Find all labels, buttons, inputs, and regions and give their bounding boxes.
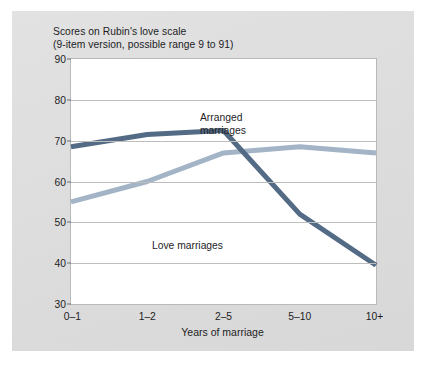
y-axis-tick-label: 30 xyxy=(55,299,66,310)
y-axis-tick-label: 40 xyxy=(55,258,66,269)
chart-title: Scores on Rubin's love scale (9-item ver… xyxy=(53,25,383,51)
chart-figure: Scores on Rubin's love scale (9-item ver… xyxy=(0,0,426,366)
y-axis-tick-label: 50 xyxy=(55,217,66,228)
y-axis-tick-mark xyxy=(67,181,71,182)
annotation-arranged-marriages: Arranged marriages xyxy=(200,112,246,137)
y-axis-tick-mark xyxy=(67,59,71,60)
y-axis-tick-mark xyxy=(67,263,71,264)
x-axis-tick-label: 0–1 xyxy=(64,311,81,322)
y-axis-tick-mark xyxy=(67,140,71,141)
gridline xyxy=(71,222,376,223)
y-axis-tick-mark xyxy=(67,304,71,305)
x-axis-tick-label: 10+ xyxy=(366,311,383,322)
y-axis-tick-mark xyxy=(67,222,71,223)
x-axis-tick-label: 5–10 xyxy=(288,311,311,322)
x-axis-tick-label: 1–2 xyxy=(139,311,156,322)
annotation-love-marriages: Love marriages xyxy=(152,240,223,253)
y-axis-tick-label: 80 xyxy=(55,94,66,105)
plot-area: 304050607080900–11–22–55–1010+ xyxy=(70,58,377,305)
y-axis-tick-label: 90 xyxy=(55,54,66,65)
gridline xyxy=(71,263,376,264)
line-arranged-marriages xyxy=(71,147,376,202)
chart-title-line-2: (9-item version, possible range 9 to 91) xyxy=(53,38,383,51)
y-axis-tick-label: 70 xyxy=(55,135,66,146)
gridline xyxy=(71,100,376,101)
y-axis-tick-label: 60 xyxy=(55,176,66,187)
gridline xyxy=(71,182,376,183)
x-axis-title: Years of marriage xyxy=(70,326,375,338)
x-axis-tick-label: 2–5 xyxy=(215,311,232,322)
chart-title-line-1: Scores on Rubin's love scale xyxy=(53,25,383,38)
y-axis-tick-mark xyxy=(67,99,71,100)
gridline xyxy=(71,141,376,142)
